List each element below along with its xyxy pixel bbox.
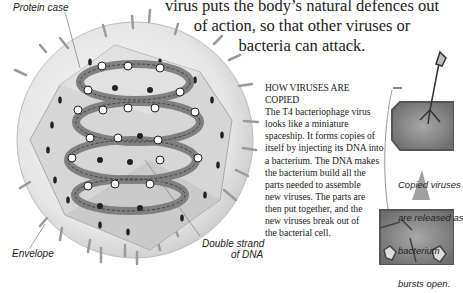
intro-line-2: of action, so that other viruses or [150,16,454,36]
section-line: then put together, and the [265,203,385,215]
caption-line: bacterium [398,245,463,256]
section-line: parts needed to assemble [265,179,385,191]
section-line: looks like a miniature [265,118,385,130]
section-line: The T4 bacteriophage virus [265,106,385,118]
label-dna-line-2: of DNA [231,249,263,260]
caption-line: bursts open. [398,278,463,289]
intro-text: virus puts the body’s natural defences o… [150,0,454,56]
how-viruses-copied-section: HOW VIRUSES ARE COPIED The T4 bacterioph… [265,82,385,239]
section-line: the bacterium build all the [265,167,385,179]
intro-line-1: virus puts the body’s natural defences o… [150,0,454,16]
section-line: a bacterium. The DNA makes [265,155,385,167]
label-dna-line-1: Double strand [202,238,264,249]
caption-line: are released as [398,212,463,223]
section-line: new viruses break out of [265,215,385,227]
section-line: the bacterial cell. [265,227,385,239]
label-protein-case: Protein case [13,2,69,13]
section-line: spaceship. It forms copies of [265,130,385,142]
section-heading: HOW VIRUSES ARE COPIED [265,82,385,106]
caption-line: Copied viruses [398,179,463,190]
label-envelope: Envelope [12,248,54,259]
side-caption: Copied viruses are released as bacterium… [398,157,463,293]
section-line: new viruses. The parts are [265,191,385,203]
section-line: itself by injecting its DNA into [265,142,385,154]
intro-line-3: bacteria can attack. [150,36,454,56]
